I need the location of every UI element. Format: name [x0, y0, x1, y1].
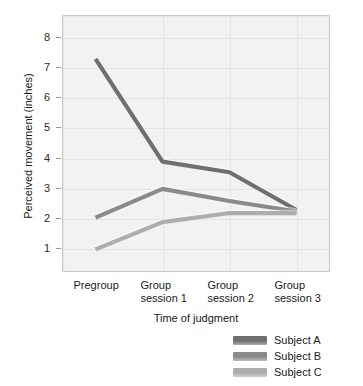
legend-item: Subject A: [233, 333, 363, 347]
legend-label: Subject B: [274, 351, 321, 362]
series-line-highlight: [96, 58, 297, 209]
x-tick-label: Group session 3: [275, 279, 321, 304]
x-tick-label: Group session 1: [141, 279, 187, 304]
legend-label: Subject A: [274, 335, 320, 346]
legend-item: Subject C: [233, 365, 363, 379]
x-tick-label: Group session 2: [208, 279, 254, 304]
legend-swatch: [233, 352, 267, 361]
x-tick-label: Pregroup: [74, 279, 119, 292]
series-line: [96, 59, 297, 210]
legend-item: Subject B: [233, 349, 363, 363]
legend-swatch: [233, 336, 267, 345]
x-axis-title: Time of judgment: [62, 312, 330, 324]
series-layer: [0, 0, 363, 386]
line-chart: 87654321 Perceived movement (inches) Pre…: [0, 0, 363, 386]
legend-label: Subject C: [274, 367, 322, 378]
legend: Subject ASubject BSubject C: [233, 333, 363, 381]
legend-swatch: [233, 368, 267, 377]
series-line: [96, 213, 297, 249]
